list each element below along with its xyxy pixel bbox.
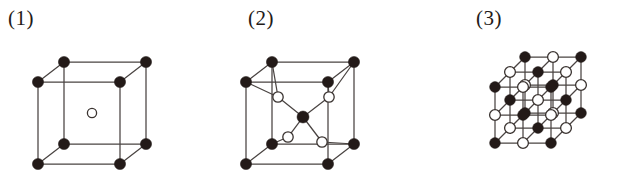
open-atom [324,92,334,102]
filled-atom-corner [58,138,69,149]
filled-atom-corner [348,138,359,149]
open-atom [546,110,557,121]
filled-atom-corner [32,76,43,87]
panel-tetrahedral: (2) [210,0,420,193]
rocksalt-lattice-diagram [421,0,631,193]
filled-atom [546,138,557,149]
filled-atom [576,108,587,119]
open-atom [518,138,529,149]
filled-atom-corner [32,158,43,169]
filled-atom-corner [266,56,277,67]
open-atom [490,110,501,121]
open-atom [548,52,559,63]
filled-atom [505,95,516,106]
open-atom [273,92,283,102]
filled-atom-corner [140,56,151,67]
filled-atom-corner [266,138,277,149]
tetrahedral-lattice-diagram [210,0,420,193]
open-atom [518,82,529,93]
filled-atom-corner [322,158,333,169]
filled-atom-corner [240,158,251,169]
filled-atom-corner [114,76,125,87]
filled-atoms [240,56,359,169]
filled-atom [561,95,572,106]
open-atom [561,123,572,134]
bcc-center-atom-group [87,108,96,117]
open-atom [283,132,293,142]
open-atom [561,67,572,78]
open-atom [576,80,587,91]
filled-atom [576,52,587,63]
filled-atom [533,67,544,78]
filled-atom-corner [322,76,333,87]
filled-atom [490,138,501,149]
filled-atom-corner [240,76,251,87]
filled-atom-corner [114,158,125,169]
filled-atom-corner [348,56,359,67]
open-atom [505,67,516,78]
panel-rocksalt: (3) [421,0,631,193]
filled-atom [518,110,529,121]
open-atom-center [87,108,96,117]
panel-bcc: (1) [0,0,210,193]
crystal-structure-figure: (1) [0,0,631,193]
open-atom [533,95,544,106]
filled-atom [546,82,557,93]
filled-atom-corner [58,56,69,67]
open-atom [317,137,327,147]
filled-atom [520,52,531,63]
open-atom [505,123,516,134]
filled-atom [533,123,544,134]
filled-atom-corner [140,138,151,149]
filled-atom [490,82,501,93]
filled-atom-center [297,111,309,123]
bcc-lattice-diagram [0,0,210,193]
